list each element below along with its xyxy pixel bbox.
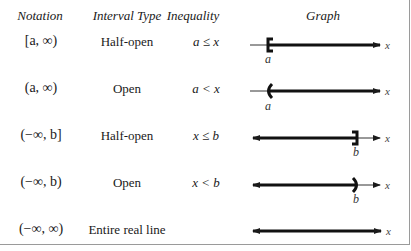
graph-row3: b x [253,132,390,159]
graph-row1: a x [250,39,390,66]
axis-label-x: x [385,225,391,237]
graph-label-a: a [265,99,271,113]
axis-label-x: x [384,132,390,144]
axis-label-x: x [384,85,390,97]
graph-label-a: a [265,52,271,66]
axis-label-x: x [384,179,390,191]
graph-label-b: b [353,145,359,159]
graph-row4: b x [253,178,390,206]
number-line-graphs: a x a x b x b x x [0,0,411,251]
axis-label-x: x [384,39,390,51]
graph-row5: x [253,225,391,237]
graph-row2: a x [250,84,390,113]
graph-label-b: b [353,192,359,206]
